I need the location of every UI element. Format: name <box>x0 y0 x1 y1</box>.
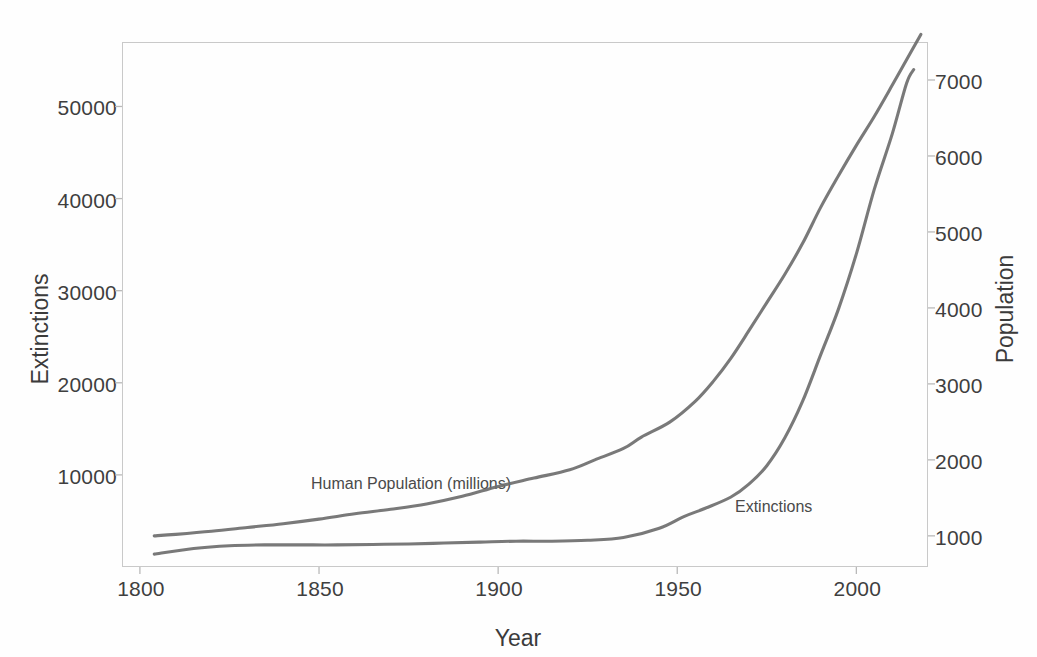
plot-area: 1000020000300004000050000 10002000300040… <box>122 42 928 567</box>
y-axis-right-tick-label: 2000 <box>935 450 983 471</box>
series-label-population: Human Population (millions) <box>311 475 511 493</box>
y-axis-right-title: Population <box>992 254 1019 363</box>
y-axis-left-tick-label: 40000 <box>58 189 117 210</box>
y-axis-right-tick-label: 4000 <box>935 298 983 319</box>
y-axis-left-tick-label: 50000 <box>58 97 117 118</box>
x-axis-tick-label: 1900 <box>475 578 523 599</box>
y-axis-right-tick-label: 6000 <box>935 146 983 167</box>
series-label-extinctions: Extinctions <box>735 498 812 516</box>
y-axis-left-tick-label: 20000 <box>58 373 117 394</box>
x-axis-tick-label: 2000 <box>834 578 882 599</box>
y-axis-right-tick-label: 3000 <box>935 374 983 395</box>
y-axis-right-tick-label: 1000 <box>935 526 983 547</box>
y-axis-right-tick-label: 7000 <box>935 70 983 91</box>
x-axis-tick-label: 1850 <box>296 578 344 599</box>
y-axis-left-tick-label: 30000 <box>58 281 117 302</box>
x-axis-tick-label: 1800 <box>117 578 165 599</box>
x-axis-tick-label: 1950 <box>654 578 702 599</box>
chart-figure: Extinctions Population Year 100002000030… <box>0 0 1037 657</box>
y-axis-right-tick-label: 5000 <box>935 222 983 243</box>
y-axis-left-tick-label: 10000 <box>58 465 117 486</box>
x-axis-title: Year <box>495 625 541 652</box>
y-axis-left-title: Extinctions <box>27 273 54 384</box>
